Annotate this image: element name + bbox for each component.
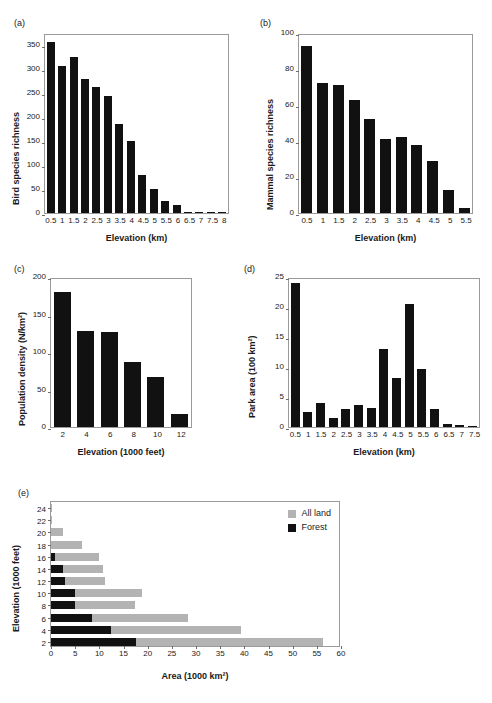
all-land-bar	[51, 528, 63, 536]
x-tick-mark	[293, 646, 294, 649]
x-tick-label: 5	[408, 427, 412, 439]
x-tick-label: 5	[153, 213, 157, 225]
x-tick-label: 4.5	[138, 213, 149, 225]
x-tick-label: 2	[83, 213, 87, 225]
y-tick-mark	[48, 545, 51, 546]
y-tick-mark	[296, 143, 299, 144]
panel-b-bars	[299, 35, 472, 213]
x-tick-mark	[51, 646, 52, 649]
bar	[417, 369, 426, 427]
bar	[47, 42, 55, 213]
panel-e: (e) All land Forest 24222018161412108642…	[0, 480, 492, 703]
bar-row	[51, 577, 341, 585]
bar	[317, 83, 328, 213]
x-tick-mark	[220, 646, 221, 649]
y-tick-mark	[48, 279, 51, 280]
y-tick-mark	[48, 429, 51, 430]
x-tick-label: 5	[448, 213, 452, 225]
x-tick-mark	[269, 646, 270, 649]
y-tick-mark	[42, 71, 45, 72]
bar	[127, 141, 135, 213]
bar-row	[51, 638, 341, 646]
bar	[58, 66, 66, 213]
y-tick-mark	[42, 143, 45, 144]
bar	[81, 79, 89, 213]
y-tick-mark	[48, 508, 51, 509]
bar	[171, 414, 188, 428]
panel-e-plot-area: All land Forest 242220181614121086420510…	[50, 501, 340, 647]
y-tick-mark	[48, 605, 51, 606]
y-tick-mark	[42, 119, 45, 120]
x-tick-mark	[172, 646, 173, 649]
bar	[427, 161, 438, 213]
panel-d-plot-area: 05101520250.511.522.533.544.555.566.577.…	[288, 278, 480, 428]
panel-c-y-axis-title: Population density (N/km²)	[18, 312, 27, 426]
panel-d-letter: (d)	[244, 264, 255, 274]
bar	[115, 124, 123, 213]
y-tick-mark	[296, 179, 299, 180]
y-tick-mark	[286, 429, 289, 430]
x-tick-label: 5.5	[418, 427, 429, 439]
bar	[341, 409, 350, 427]
y-tick-mark	[296, 71, 299, 72]
bar	[333, 85, 344, 213]
panel-b: (b) 0204060801000.511.522.533.544.555.5 …	[246, 0, 492, 258]
x-tick-label: 0.5	[45, 213, 56, 225]
bar	[92, 87, 100, 213]
x-tick-label: 3.5	[115, 213, 126, 225]
bar	[405, 304, 414, 427]
x-tick-mark	[196, 646, 197, 649]
x-tick-label: 4	[383, 427, 387, 439]
forest-bar	[51, 601, 75, 609]
x-tick-label: 2	[352, 213, 356, 225]
bar	[430, 409, 439, 427]
bar	[104, 96, 112, 213]
bar	[150, 189, 158, 213]
panel-c-bars	[51, 279, 191, 427]
forest-bar	[51, 589, 75, 597]
x-tick-label: 6.5	[184, 213, 195, 225]
y-tick-mark	[296, 107, 299, 108]
y-tick-mark	[48, 354, 51, 355]
x-tick-label: 2.5	[365, 213, 376, 225]
y-tick-mark	[48, 618, 51, 619]
bar	[301, 46, 312, 213]
bar	[124, 362, 141, 427]
forest-bar	[51, 626, 111, 634]
x-tick-label: 3	[384, 213, 388, 225]
panel-e-y-axis-title: Elevation (1000 feet)	[12, 545, 21, 632]
panel-e-x-axis-title: Area (1000 km²)	[50, 672, 340, 681]
bar	[77, 331, 94, 427]
all-land-bar	[51, 504, 52, 512]
x-tick-label: 8	[222, 213, 226, 225]
x-tick-mark	[148, 646, 149, 649]
bar-row	[51, 589, 341, 597]
x-tick-label: 4	[84, 427, 88, 439]
y-tick-mark	[48, 581, 51, 582]
forest-bar	[51, 614, 92, 622]
all-land-bar	[51, 541, 82, 549]
x-tick-label: 4.5	[392, 427, 403, 439]
y-tick-mark	[48, 392, 51, 393]
x-tick-mark	[244, 646, 245, 649]
y-tick-mark	[48, 569, 51, 570]
bar	[379, 349, 388, 427]
x-tick-label: 1	[321, 213, 325, 225]
bar-row	[51, 553, 341, 561]
x-tick-label: 2.5	[91, 213, 102, 225]
x-tick-label: 7	[199, 213, 203, 225]
panel-a-y-axis-title: Bird species richness	[12, 112, 21, 205]
x-tick-label: 7	[460, 427, 464, 439]
y-tick-mark	[42, 167, 45, 168]
bar	[396, 137, 407, 213]
x-tick-label: 4	[129, 213, 133, 225]
x-tick-label: 1	[60, 213, 64, 225]
x-tick-label: 2	[61, 427, 65, 439]
x-tick-label: 6	[434, 427, 438, 439]
x-tick-label: 3	[357, 427, 361, 439]
x-tick-label: 6.5	[443, 427, 454, 439]
y-tick-mark	[286, 369, 289, 370]
y-tick-mark	[296, 215, 299, 216]
y-tick-mark	[286, 309, 289, 310]
x-tick-label: 6	[108, 427, 112, 439]
